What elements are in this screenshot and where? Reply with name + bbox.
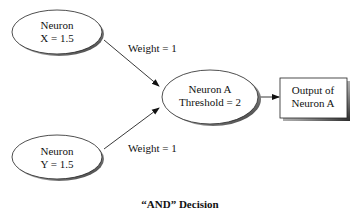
diagram-caption: “AND” Decision	[141, 198, 218, 210]
and-decision-diagram: Neuron X = 1.5 Neuron Y = 1.5 Neuron A T…	[0, 0, 360, 223]
node-value: Y = 1.5	[41, 158, 74, 170]
node-label: Neuron	[41, 19, 74, 31]
node-label: Output of	[292, 84, 335, 96]
node-value: X = 1.5	[40, 32, 74, 44]
node-label: Neuron	[41, 145, 74, 157]
node-output: Output of Neuron A	[280, 78, 350, 121]
node-label: Neuron A	[188, 83, 231, 95]
node-neuron-x: Neuron X = 1.5	[12, 10, 104, 56]
node-value: Neuron A	[291, 97, 334, 109]
edge-label-y-weight: Weight = 1	[128, 142, 177, 154]
node-neuron-a: Neuron A Threshold = 2	[162, 70, 261, 126]
edge-label-x-weight: Weight = 1	[128, 42, 177, 54]
node-neuron-y: Neuron Y = 1.5	[12, 135, 104, 181]
node-value: Threshold = 2	[179, 96, 241, 108]
